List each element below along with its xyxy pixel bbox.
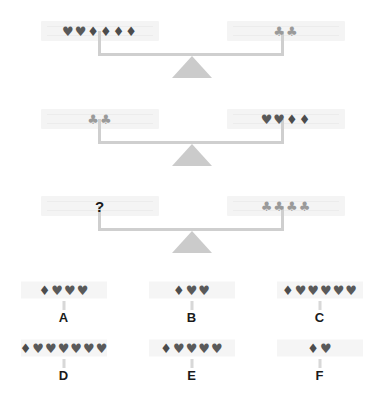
diamond-icon: ♦ (307, 342, 319, 355)
heart-icon: ♥ (273, 113, 285, 126)
heart-icon: ♥ (307, 284, 319, 297)
answer-options-row-1: ♦♥♥♥ A ♦♥♥ B ♦♥♥♥♥♥ C (0, 272, 383, 330)
club-icon: ♣ (286, 25, 298, 38)
answer-option-d[interactable]: ♦♥♥♥♥♥♥ D (0, 330, 127, 388)
option-e-symbols: ♦♥♥♥♥ (160, 342, 222, 355)
unknown-question-mark: ? (95, 198, 104, 215)
club-icon: ♣ (273, 25, 285, 38)
diamond-icon: ♦ (125, 25, 137, 38)
answer-option-c[interactable]: ♦♥♥♥♥♥ C (256, 272, 383, 330)
option-c-symbols: ♦♥♥♥♥♥ (282, 284, 357, 297)
answer-options: ♦♥♥♥ A ♦♥♥ B ♦♥♥♥♥♥ C (0, 272, 383, 400)
heart-icon: ♥ (320, 284, 332, 297)
scale-1-right-symbols: ♣♣ (273, 25, 297, 38)
option-d-label: D (0, 368, 127, 383)
heart-icon: ♥ (186, 342, 198, 355)
answer-option-b[interactable]: ♦♥♥ B (128, 272, 255, 330)
heart-icon: ♥ (62, 25, 74, 38)
scale-2: ♣♣ ♥♥♦♦ (0, 94, 383, 179)
heart-icon: ♥ (320, 342, 332, 355)
option-tray: ♦♥♥♥♥ (128, 338, 255, 358)
option-tray: ♦♥♥ (128, 280, 255, 300)
diamond-icon: ♦ (87, 25, 99, 38)
heart-icon: ♥ (83, 342, 95, 355)
club-icon: ♣ (273, 200, 285, 213)
option-d-symbols: ♦♥♥♥♥♥♥ (20, 342, 108, 355)
scale-3-right-pan: ♣♣♣♣ (208, 195, 363, 217)
heart-icon: ♥ (345, 284, 357, 297)
option-tray: ♦♥♥♥♥♥♥ (0, 338, 127, 358)
scale-3-right-symbols: ♣♣♣♣ (261, 200, 311, 213)
heart-icon: ♥ (58, 342, 70, 355)
scale-2-right-pan: ♥♥♦♦ (208, 108, 363, 130)
heart-icon: ♥ (32, 342, 44, 355)
option-f-symbols: ♦♥ (307, 342, 331, 355)
heart-icon: ♥ (96, 342, 108, 355)
heart-icon: ♥ (211, 342, 223, 355)
scale-1-left-symbols: ♥♥♦♦♦♦ (62, 25, 137, 38)
diamond-icon: ♦ (286, 113, 298, 126)
heart-icon: ♥ (70, 342, 82, 355)
option-stem (62, 359, 65, 368)
scale-2-right-symbols: ♥♥♦♦ (261, 113, 311, 126)
diamond-icon: ♦ (160, 342, 172, 355)
heart-icon: ♥ (186, 284, 198, 297)
heart-icon: ♥ (64, 284, 76, 297)
diamond-icon: ♦ (113, 25, 125, 38)
club-icon: ♣ (299, 200, 311, 213)
option-tray: ♦♥♥♥ (0, 280, 127, 300)
option-c-label: C (256, 310, 383, 325)
answer-option-f[interactable]: ♦♥ F (256, 330, 383, 388)
answer-option-e[interactable]: ♦♥♥♥♥ E (128, 330, 255, 388)
club-icon: ♣ (261, 200, 273, 213)
answer-options-row-2: ♦♥♥♥♥♥♥ D ♦♥♥♥♥ E ♦♥ F (0, 330, 383, 388)
balance-scale-puzzle: ♥♥♦♦♦♦ ♣♣ ♣♣ ♥♥♦♦ ? (0, 0, 383, 401)
answer-option-a[interactable]: ♦♥♥♥ A (0, 272, 127, 330)
option-tray: ♦♥ (256, 338, 383, 358)
heart-icon: ♥ (51, 284, 63, 297)
diamond-icon: ♦ (282, 284, 294, 297)
heart-icon: ♥ (198, 342, 210, 355)
scale-3: ? ♣♣♣♣ (0, 181, 383, 266)
scale-1-right-pan: ♣♣ (208, 20, 363, 42)
option-b-symbols: ♦♥♥ (173, 284, 210, 297)
heart-icon: ♥ (75, 25, 87, 38)
diamond-icon: ♦ (173, 284, 185, 297)
club-icon: ♣ (286, 200, 298, 213)
option-stem (190, 301, 193, 310)
diamond-icon: ♦ (39, 284, 51, 297)
club-icon: ♣ (87, 113, 99, 126)
scale-3-fulcrum (172, 231, 212, 253)
diamond-icon: ♦ (20, 342, 32, 355)
option-stem (62, 301, 65, 310)
heart-icon: ♥ (261, 113, 273, 126)
scale-2-fulcrum (172, 144, 212, 166)
heart-icon: ♥ (295, 284, 307, 297)
heart-icon: ♥ (45, 342, 57, 355)
scale-3-left-pan: ? (22, 195, 177, 217)
option-b-label: B (128, 310, 255, 325)
club-icon: ♣ (100, 113, 112, 126)
option-a-label: A (0, 310, 127, 325)
option-f-label: F (256, 368, 383, 383)
scale-1-fulcrum (172, 56, 212, 78)
diamond-icon: ♦ (299, 113, 311, 126)
heart-icon: ♥ (333, 284, 345, 297)
scale-2-left-symbols: ♣♣ (87, 113, 111, 126)
heart-icon: ♥ (173, 342, 185, 355)
heart-icon: ♥ (77, 284, 89, 297)
diamond-icon: ♦ (100, 25, 112, 38)
option-e-label: E (128, 368, 255, 383)
scale-1: ♥♥♦♦♦♦ ♣♣ (0, 6, 383, 91)
option-stem (318, 301, 321, 310)
option-stem (318, 359, 321, 368)
option-stem (190, 359, 193, 368)
heart-icon: ♥ (198, 284, 210, 297)
option-tray: ♦♥♥♥♥♥ (256, 280, 383, 300)
option-a-symbols: ♦♥♥♥ (39, 284, 89, 297)
